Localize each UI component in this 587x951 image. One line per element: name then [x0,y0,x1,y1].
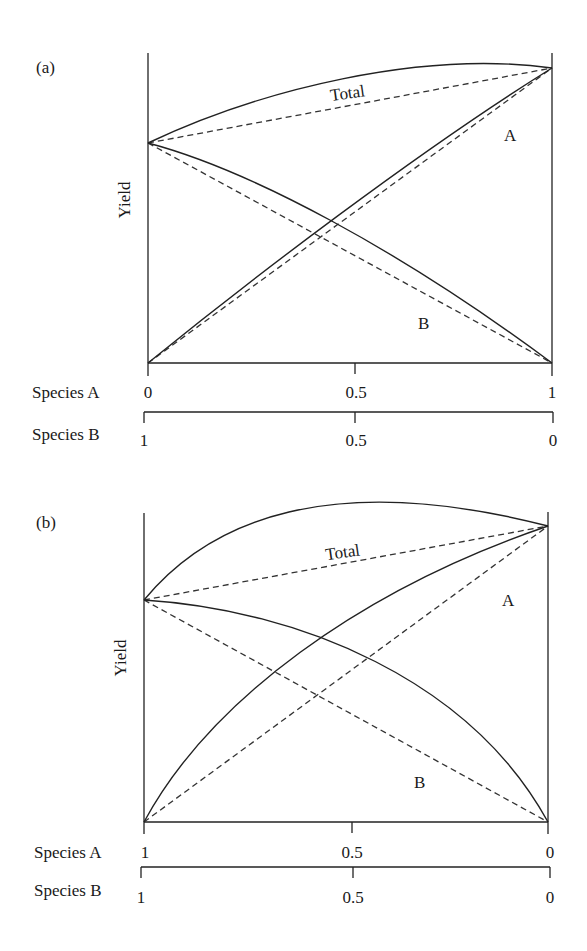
panel-b-species-a-label: Species A [34,843,102,862]
panel-b-label: (b) [36,513,56,532]
panel-a-total-label: Total [329,81,366,105]
panel-b-a-label: A [502,591,515,610]
panel-a-b-label: B [418,314,429,333]
panel-a-species-a-tick-0: 0 [144,383,153,402]
panel-a-b-expected-line [148,143,552,363]
panel-b-species-a-tick-2: 0 [546,843,555,862]
panel-a-species-a-label: Species A [32,383,100,402]
panel-b: (b) Yield Total A B Species A 1 0.5 0 Sp… [34,502,554,907]
panel-b-ylabel: Yield [111,639,130,676]
panel-b-species-b-tick-label-1: 0.5 [342,888,363,907]
panel-b-species-b-tick-label-0: 1 [137,888,146,907]
panel-b-species-b-tick-label-2: 0 [546,888,555,907]
panel-a-species-a-tick-1: 0.5 [345,383,366,402]
panel-a-species-a-tick-2: 1 [548,383,557,402]
panel-a-species-b-tick-label-2: 0 [549,431,558,450]
panel-a-a-label: A [504,126,517,145]
panel-a-total-expected-line [148,68,552,143]
panel-b-species-b-label: Species B [34,881,102,900]
panel-a-ylabel: Yield [115,181,134,218]
panel-b-species-a-tick-1: 0.5 [341,843,362,862]
panel-b-total-expected-line [144,526,548,600]
panel-b-species-a-tick-0: 1 [141,843,150,862]
panel-a-species-b-tick-label-1: 0.5 [345,431,366,450]
panel-b-a-expected-line [144,526,548,822]
yield-figure: (a) Yield Total A B Species A 0 0.5 1 Sp… [0,0,587,951]
panel-a-species-b-tick-label-0: 1 [140,431,149,450]
panel-a: (a) Yield Total A B Species A 0 0.5 1 Sp… [32,53,557,450]
panel-b-b-expected-line [144,600,548,822]
panel-a-label: (a) [36,58,55,77]
panel-a-species-b-label: Species B [32,425,100,444]
panel-b-total-label: Total [324,540,361,564]
panel-b-b-label: B [414,773,425,792]
